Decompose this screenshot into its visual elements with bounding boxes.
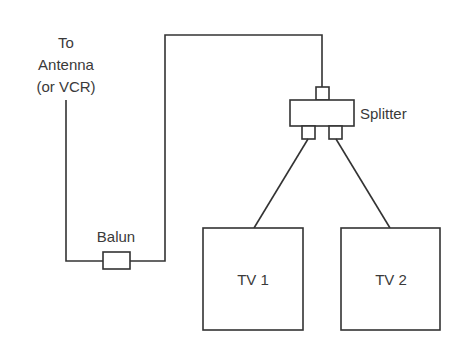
wire-to-tv1 — [254, 139, 308, 228]
splitter — [290, 87, 354, 139]
antenna-label-line2: Antenna — [38, 56, 95, 73]
tv1-label: TV 1 — [237, 271, 269, 288]
splitter-output-connector-1 — [302, 126, 315, 139]
balun-label: Balun — [97, 228, 135, 245]
tv2-label: TV 2 — [375, 271, 407, 288]
antenna-label-line1: To — [58, 34, 74, 51]
antenna-label: To Antenna (or VCR) — [36, 34, 95, 95]
wire-to-tv2 — [336, 139, 390, 228]
splitter-label: Splitter — [360, 105, 407, 122]
splitter-body — [290, 100, 354, 126]
antenna-label-line3: (or VCR) — [36, 78, 95, 95]
balun-box — [103, 252, 130, 269]
antenna-splitter-diagram: To Antenna (or VCR) Balun Splitter TV 1 … — [0, 0, 459, 344]
splitter-output-connector-2 — [329, 126, 342, 139]
coax-wire-to-splitter — [130, 35, 322, 261]
splitter-input-connector — [316, 87, 329, 100]
